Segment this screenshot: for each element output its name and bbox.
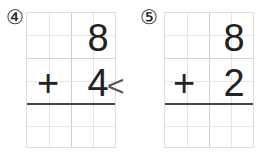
problem-number-badge: ⑤ — [140, 8, 158, 26]
bottom-digit: 2 — [219, 64, 249, 102]
problem-4: ④ 8 + 4 < — [0, 0, 135, 154]
answer-input[interactable] — [165, 105, 253, 149]
problem-number-badge: ④ — [6, 8, 24, 26]
problem-5: ⑤ 8 + 2 — [134, 0, 269, 154]
operator-plus: + — [33, 64, 63, 102]
answer-input[interactable] — [27, 105, 115, 149]
addition-grid: 8 + 2 — [164, 12, 254, 148]
pointer-arrow-icon: < — [107, 71, 125, 101]
top-digit: 8 — [83, 19, 113, 57]
addition-grid: 8 + 4 — [26, 12, 116, 148]
operator-plus: + — [169, 64, 199, 102]
top-digit: 8 — [219, 19, 249, 57]
